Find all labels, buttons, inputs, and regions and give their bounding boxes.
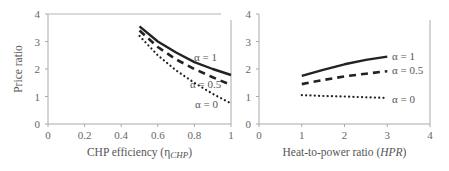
- series-line-dotted: [302, 95, 388, 98]
- series-label: α = 1: [392, 50, 415, 62]
- series-label: α = 1: [194, 51, 217, 63]
- y-axis-label: Price ratio: [12, 45, 24, 93]
- x-tick-label: 4: [427, 129, 433, 141]
- y-tick-label: 0: [246, 118, 252, 130]
- series-label: α = 0: [195, 98, 218, 110]
- x-tick-label: 2: [342, 129, 348, 141]
- x-tick-label: 0.8: [188, 129, 202, 141]
- y-tick-label: 1: [246, 91, 252, 103]
- y-tick-label: 2: [246, 63, 252, 75]
- chart-panel-chp-efficiency: 0123400.20.40.60.81CHP efficiency (ηCHP)…: [12, 8, 234, 160]
- chart-canvas: 0123400.20.40.60.81CHP efficiency (ηCHP)…: [0, 0, 449, 171]
- x-tick-label: 3: [385, 129, 391, 141]
- x-tick-label: 1: [299, 129, 305, 141]
- x-axis-label: CHP efficiency (ηCHP): [87, 146, 192, 160]
- series-label: α = 0.5: [392, 64, 424, 76]
- x-tick-label: 0.4: [114, 129, 128, 141]
- x-tick-label: 1: [228, 129, 234, 141]
- x-tick-label: 0: [256, 129, 262, 141]
- y-tick-label: 0: [35, 118, 41, 130]
- x-axis-label: Heat-to-power ratio (HPR): [283, 146, 407, 159]
- y-tick-label: 4: [35, 8, 41, 20]
- series-label: α = 0: [392, 93, 415, 105]
- x-tick-label: 0.6: [151, 129, 165, 141]
- series-line-solid: [140, 26, 232, 75]
- y-tick-label: 1: [35, 91, 41, 103]
- chart-panel-heat-to-power: 0123401234Heat-to-power ratio (HPR)α = 1…: [246, 8, 434, 159]
- y-tick-label: 3: [246, 36, 252, 48]
- x-tick-label: 0.2: [78, 129, 92, 141]
- x-tick-label: 0: [45, 129, 51, 141]
- y-tick-label: 2: [35, 63, 41, 75]
- y-tick-label: 4: [246, 8, 252, 20]
- y-tick-label: 3: [35, 36, 41, 48]
